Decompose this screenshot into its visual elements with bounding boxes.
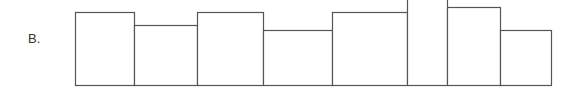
bar-3 — [198, 13, 264, 86]
bar-8 — [501, 31, 552, 86]
bar-5 — [333, 13, 408, 86]
bar-6 — [408, 0, 448, 86]
bar-diagram — [0, 0, 578, 93]
bar-4 — [264, 31, 333, 86]
bar-2 — [135, 26, 198, 86]
bar-7 — [448, 8, 501, 86]
bar-1 — [76, 13, 135, 86]
